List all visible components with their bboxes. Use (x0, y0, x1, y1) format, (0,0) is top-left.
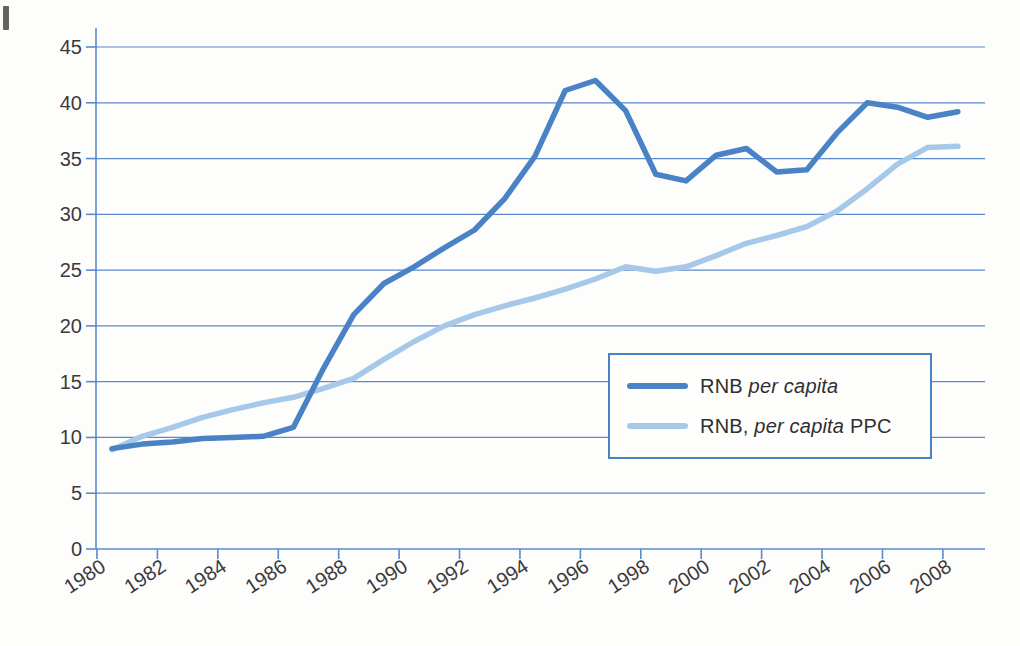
legend-label-rnb-per-capita-ppc: RNB, per capita PPC (700, 415, 892, 438)
legend-label-part: PPC (844, 415, 891, 437)
y-axis-tick-label: 20 (60, 315, 82, 337)
x-axis-tick-label: 2008 (906, 555, 955, 598)
x-axis-tick-label: 2004 (785, 555, 834, 598)
x-axis-tick-label: 1986 (241, 555, 290, 598)
legend-swatch-rnb-per-capita (627, 383, 688, 389)
y-axis-tick-label: 40 (60, 92, 82, 114)
x-axis-tick-label: 1998 (604, 555, 653, 598)
x-axis-tick-label: 1994 (483, 555, 532, 598)
y-axis-tick-label: 35 (60, 148, 82, 170)
y-axis-tick-label: 45 (60, 36, 82, 58)
x-axis-tick-label: 2002 (724, 555, 773, 598)
x-axis-tick-label: 1990 (362, 555, 411, 598)
x-axis-tick-label: 1980 (60, 555, 109, 598)
y-axis-tick-label: 10 (60, 426, 82, 448)
legend-swatch-rnb-per-capita-ppc (627, 423, 688, 429)
y-axis-tick-label: 5 (71, 482, 82, 504)
legend-item-rnb-per-capita: RNB per capita (627, 373, 930, 399)
x-axis-tick-label: 1996 (543, 555, 592, 598)
legend-label-part-italic: per capita (754, 415, 844, 437)
figure-line-chart: 0510152025303540451980198219841986198819… (0, 0, 1020, 646)
y-axis-tick-label: 0 (71, 538, 82, 560)
legend-label-part: RNB, (700, 415, 754, 437)
legend-label-part-italic: per capita (749, 375, 839, 397)
x-axis-tick-label: 1982 (120, 555, 169, 598)
y-axis-tick-label: 30 (60, 203, 82, 225)
x-axis-tick-label: 2000 (664, 555, 713, 598)
x-axis-tick-label: 2006 (845, 555, 894, 598)
x-axis-tick-label: 1992 (422, 555, 471, 598)
legend-label-part: RNB (700, 375, 749, 397)
y-axis-tick-label: 15 (60, 371, 82, 393)
legend-label-rnb-per-capita: RNB per capita (700, 375, 838, 398)
chart: 0510152025303540451980198219841986198819… (0, 0, 1020, 646)
x-axis-tick-label: 1984 (181, 555, 230, 598)
x-axis-tick-label: 1988 (302, 555, 351, 598)
y-axis-tick-label: 25 (60, 259, 82, 281)
legend: RNB per capita RNB, per capita PPC (608, 353, 932, 459)
legend-item-rnb-per-capita-ppc: RNB, per capita PPC (627, 413, 930, 439)
